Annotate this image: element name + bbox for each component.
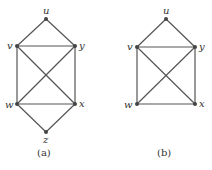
node-label-x: x — [199, 98, 205, 109]
graph-b: u v y w x (b) — [124, 5, 205, 158]
edge-u-v — [17, 19, 46, 46]
node-v — [15, 44, 19, 48]
node-label-z: z — [42, 134, 49, 145]
graph-figure: u v y w x z (a) u v y w x (b) — [0, 0, 212, 170]
node-y — [193, 45, 197, 49]
edge-u-y — [166, 19, 195, 47]
graph-a: u v y w x z (a) — [5, 5, 85, 158]
node-label-u: u — [43, 5, 49, 16]
node-x — [193, 102, 197, 106]
node-u — [44, 17, 48, 21]
node-label-v: v — [127, 41, 133, 52]
node-label-w: w — [5, 99, 14, 110]
edge-u-y — [46, 19, 75, 46]
node-u — [164, 17, 168, 21]
node-label-u: u — [163, 5, 169, 16]
caption-b: (b) — [157, 147, 171, 158]
node-w — [135, 102, 139, 106]
node-label-x: x — [79, 98, 85, 109]
node-y — [73, 44, 77, 48]
node-label-w: w — [124, 99, 133, 110]
node-label-y: y — [78, 40, 85, 51]
node-x — [73, 102, 77, 106]
node-w — [15, 102, 19, 106]
node-v — [135, 45, 139, 49]
node-label-y: y — [198, 41, 205, 52]
node-label-v: v — [7, 40, 13, 51]
edge-x-z — [46, 104, 75, 132]
edge-u-v — [137, 19, 166, 47]
edge-w-z — [17, 104, 46, 132]
caption-a: (a) — [37, 147, 51, 158]
